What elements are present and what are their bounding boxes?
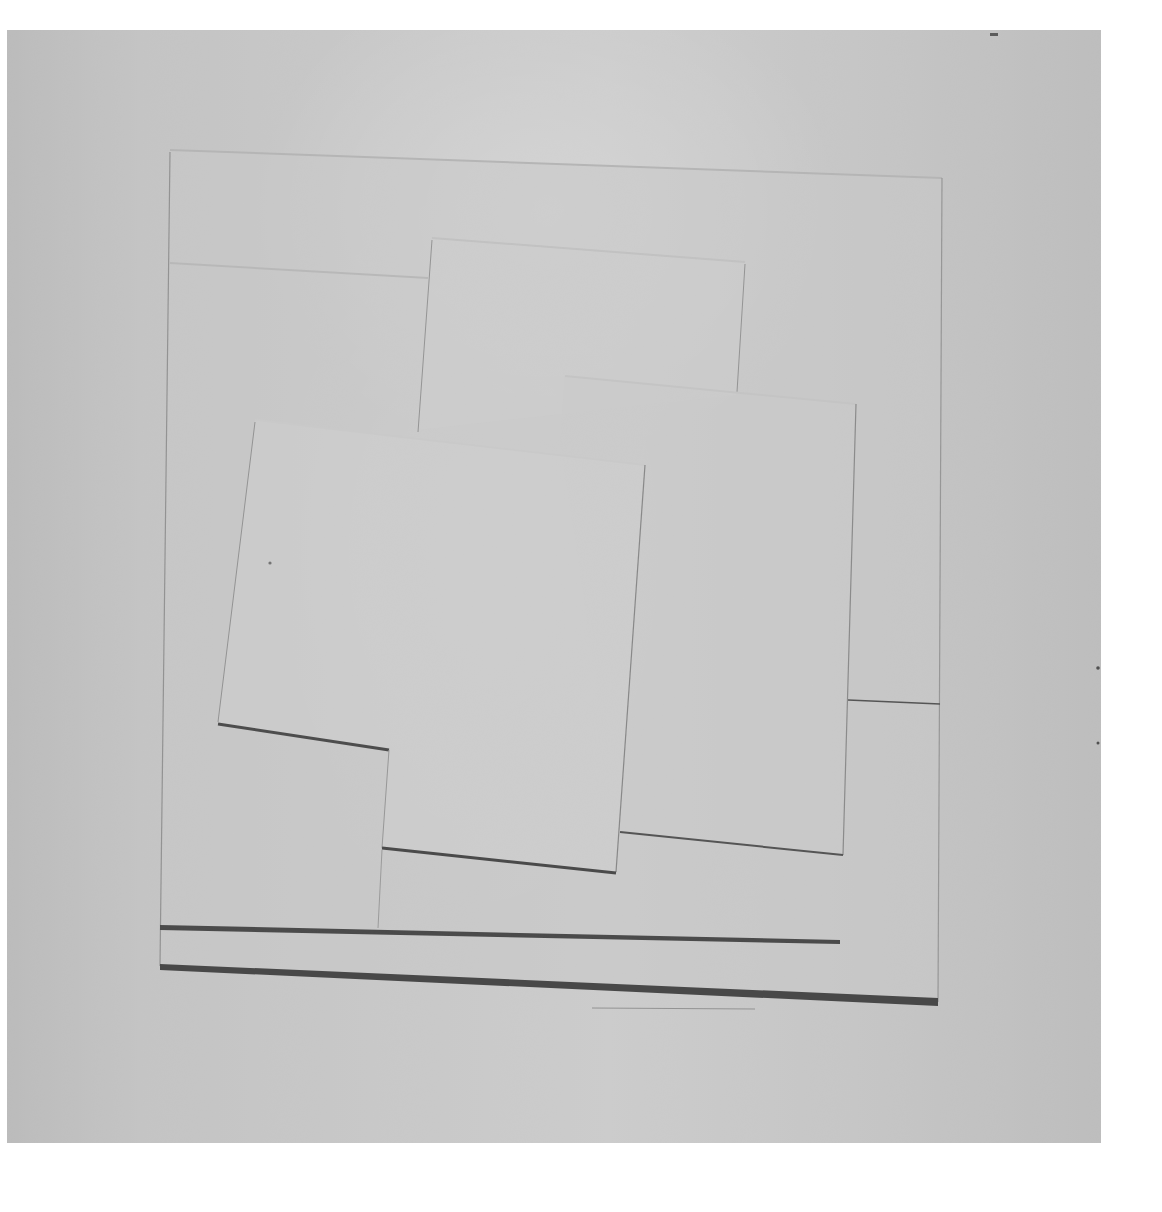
- artwork-photograph: [7, 30, 1101, 1143]
- caption-text: [38, 1204, 94, 1212]
- relief-artwork: [7, 30, 1101, 1143]
